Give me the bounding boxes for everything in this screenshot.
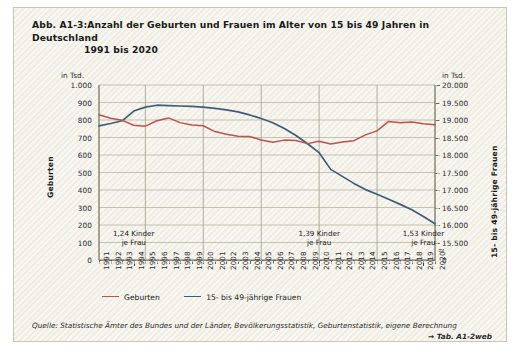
legend-swatch-births: [102, 296, 119, 297]
right-axis-tick-label: 19.500: [442, 99, 486, 108]
x-axis-tick-label: 2000: [206, 251, 215, 270]
x-axis-tick-label: 2017: [403, 251, 412, 270]
left-axis-tick-label: 200: [52, 221, 92, 230]
right-axis-tick: [435, 225, 440, 226]
table-reference-link[interactable]: → Tab. A1-2web: [428, 331, 492, 342]
x-axis-tick-label: 1995: [148, 251, 157, 270]
figure-title-line2: 1991 bis 2020: [84, 44, 487, 57]
x-axis-tick-label: 2001: [218, 251, 227, 270]
source-text: Quelle: Statistische Ämter des Bundes un…: [32, 321, 457, 330]
x-axis-tick-label: 2009: [311, 251, 320, 270]
left-axis-tick-label: 100: [52, 239, 92, 248]
right-axis-tick: [435, 208, 440, 209]
right-axis-tick: [435, 85, 440, 86]
left-axis-tick-label: 400: [52, 186, 92, 195]
annotation-fertility-rate: 1,39 Kinderje Frau: [289, 230, 349, 247]
x-axis-tick-label: 2020: [438, 251, 447, 270]
legend-swatch-women: [184, 296, 201, 297]
annotation-line2: je Frau: [289, 239, 349, 248]
right-axis-tick: [435, 155, 440, 156]
series-line-births: [99, 115, 435, 144]
x-axis-tick-label: 2006: [276, 251, 285, 270]
x-axis-tick-label: 2014: [368, 251, 377, 270]
right-axis-tick-label: 20.000: [442, 81, 486, 90]
left-axis-tick-label: 1.000: [52, 81, 92, 90]
left-axis-tick-label: 600: [52, 151, 92, 160]
legend-label-women: 15- bis 49-jährige Frauen: [206, 293, 301, 302]
x-axis-tick-label: 2015: [380, 251, 389, 270]
left-axis-tick-label: 300: [52, 204, 92, 213]
x-axis-tick-label: 2008: [299, 251, 308, 270]
annotation-fertility-rate: 1,53 Kinderje Frau: [393, 230, 453, 247]
x-axis-tick-label: 2007: [287, 251, 296, 270]
right-axis-tick-label: 19.000: [442, 116, 486, 125]
right-axis-tick: [435, 103, 440, 104]
right-axis-tick-label: 17.000: [442, 186, 486, 195]
left-axis-tick-label: 700: [52, 134, 92, 143]
x-axis-tick-label: 2011: [334, 251, 343, 270]
annotation-line2: je Frau: [393, 239, 453, 248]
annotation-fertility-rate: 1,24 Kinderje Frau: [104, 230, 164, 247]
x-axis-tick-label: 1993: [125, 251, 134, 270]
x-axis-tick-label: 2018: [415, 251, 424, 270]
right-axis-tick: [435, 190, 440, 191]
x-axis-tick-label: 1994: [137, 251, 146, 270]
left-axis-tick-label: 800: [52, 116, 92, 125]
annotation-line2: je Frau: [104, 239, 164, 248]
x-axis-tick-label: 2013: [357, 251, 366, 270]
x-axis-tick-label: 2010: [322, 251, 331, 270]
x-axis-tick-label: 2012: [345, 251, 354, 270]
x-axis-tick-label: 2005: [264, 251, 273, 270]
right-axis-tick: [435, 120, 440, 121]
series-line-women: [99, 105, 435, 224]
legend-label-births: Geburten: [124, 293, 160, 302]
right-axis-unit: in Tsd.: [442, 71, 465, 80]
left-axis-unit: in Tsd.: [61, 71, 84, 80]
x-axis-tick-label: 2002: [229, 251, 238, 270]
right-axis-tick: [435, 138, 440, 139]
right-axis-tick-label: 16.500: [442, 204, 486, 213]
right-axis-tick-label: 17.500: [442, 169, 486, 178]
right-axis-tick-label: 16.000: [442, 221, 486, 230]
right-axis-tick-label: 18.000: [442, 151, 486, 160]
figure-title-line1: Anzahl der Geburten und Frauen im Alter …: [32, 19, 429, 43]
x-axis-tick-label: 1998: [183, 251, 192, 270]
legend-item-births: Geburten: [102, 293, 160, 302]
legend-item-women: 15- bis 49-jährige Frauen: [184, 293, 301, 302]
x-axis-tick-label: 1991: [102, 251, 111, 270]
right-axis-title: 15- bis 49-jährige Frauen: [490, 145, 499, 258]
source-note: Quelle: Statistische Ämter des Bundes un…: [32, 320, 492, 331]
right-axis-tick-label: 0: [442, 256, 486, 265]
x-axis-tick-label: 1999: [195, 251, 204, 270]
x-axis-tick-label: 2004: [253, 251, 262, 270]
right-axis-tick: [435, 173, 440, 174]
figure-card: Abb. A1-3:Anzahl der Geburten und Frauen…: [13, 7, 507, 342]
x-axis-tick-label: 1997: [172, 251, 181, 270]
x-axis-tick-label: 1992: [114, 251, 123, 270]
x-axis-tick-label: 2003: [241, 251, 250, 270]
left-axis-tick-label: 0: [52, 256, 92, 265]
page-title: Abb. A1-3:Anzahl der Geburten und Frauen…: [32, 19, 487, 57]
left-axis-tick-label: 500: [52, 169, 92, 178]
chart-legend: Geburten 15- bis 49-jährige Frauen: [102, 293, 323, 302]
x-axis-tick: [435, 260, 436, 264]
right-axis-tick-label: 18.500: [442, 134, 486, 143]
x-axis-tick-label: 2019: [426, 251, 435, 270]
figure-number: Abb. A1-3:: [32, 19, 87, 32]
left-axis-tick-label: 900: [52, 99, 92, 108]
x-axis-tick-label: 2016: [392, 251, 401, 270]
x-axis-tick-label: 1996: [160, 251, 169, 270]
